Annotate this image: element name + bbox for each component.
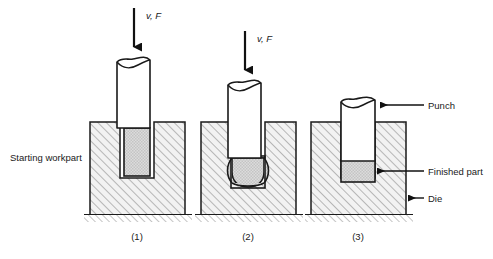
finished-part-3 (341, 160, 375, 182)
workpart-bulged-2 (228, 156, 269, 188)
punch-label: Punch (428, 100, 455, 111)
ground-3 (305, 215, 413, 222)
forging-process-diagram: v, F (1) Starting workpart (0, 0, 493, 259)
stage-2-number: (2) (242, 231, 254, 242)
punch-1 (117, 57, 150, 128)
starting-workpart-label: Starting workpart (10, 152, 82, 163)
force-label-2: v, F (257, 33, 273, 44)
die-label: Die (428, 193, 442, 204)
stage-3-number: (3) (352, 231, 364, 242)
starting-workpart-1 (124, 128, 150, 176)
punch-3 (341, 97, 375, 161)
ground-1 (84, 215, 192, 222)
callout-starting-workpart: Starting workpart (10, 152, 82, 163)
stage-1-number: (1) (131, 231, 143, 242)
force-label-1: v, F (146, 10, 162, 21)
finished-part-label: Finished part (428, 166, 483, 177)
punch-2 (228, 80, 261, 158)
ground-2 (195, 215, 303, 222)
